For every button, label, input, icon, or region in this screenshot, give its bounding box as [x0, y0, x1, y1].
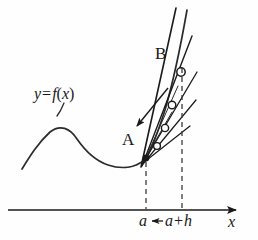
curve-label-equals: =	[41, 85, 52, 102]
x-tick-label-a-plus-h: a+h	[165, 213, 192, 229]
x-tick-a-part: a	[165, 212, 173, 229]
figure-canvas	[0, 0, 258, 240]
secant-line-to-b	[142, 36, 192, 166]
secant-circle-4	[154, 143, 161, 150]
curve-label-x: x	[62, 85, 69, 102]
curve-equation-label: y=f(x)	[34, 86, 74, 102]
secant-circle-2	[168, 101, 176, 109]
point-a-label: A	[122, 131, 134, 148]
secant-circle-3	[161, 124, 168, 131]
point-b-circle	[177, 68, 185, 76]
secant-tangent-figure: y=f(x) A B a a+h x	[0, 0, 258, 240]
x-tick-h-part: h	[184, 212, 192, 229]
point-b-label: B	[155, 45, 166, 62]
x-axis-label: x	[228, 214, 235, 230]
x-tick-plus-sign: +	[173, 212, 184, 229]
secant-line-family	[141, 8, 197, 167]
x-tick-label-a: a	[139, 213, 147, 229]
curve-label-close-paren: )	[69, 85, 74, 102]
curve-label-leader	[57, 103, 64, 116]
point-a-marker	[143, 155, 150, 162]
point-a-pointer-arrow	[137, 88, 168, 126]
